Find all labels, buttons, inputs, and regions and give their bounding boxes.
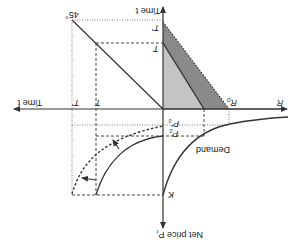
svg-text:Time t: Time t (135, 6, 160, 16)
svg-text:Net price Pt: Net price Pt (157, 229, 204, 240)
svg-text:R: R (276, 98, 283, 108)
svg-text:K: K (167, 190, 174, 200)
label-time-left: Time t (17, 98, 42, 108)
svg-text:P'0: P'0 (169, 118, 180, 129)
label-time-up: Time t (135, 6, 160, 16)
demand-curve (163, 117, 288, 195)
svg-text:T': T' (72, 98, 79, 108)
svg-text:T: T (152, 44, 159, 54)
label-r0: R0 (226, 97, 237, 108)
svg-text:R0: R0 (226, 97, 237, 108)
label-t-prime-horizontal: T' (72, 98, 79, 108)
svg-text:T': T' (152, 23, 159, 33)
label-t-horizontal: T (94, 98, 101, 108)
label-p0-prime: P'0 (169, 118, 180, 129)
label-demand: Demand (196, 145, 230, 155)
resource-extraction-diagram: R Time t Time t Net price Pt 45° T' T T'… (0, 0, 300, 243)
label-t-prime-vertical: T' (152, 23, 159, 33)
svg-text:T: T (94, 98, 101, 108)
shift-arrow-lower (82, 178, 96, 180)
label-r-axis: R (276, 98, 283, 108)
label-p0: P0 (169, 128, 178, 139)
price-path-solid (96, 136, 163, 195)
svg-text:P0: P0 (169, 128, 178, 139)
label-t-vertical: T (152, 44, 159, 54)
shift-arrow-upper (113, 140, 119, 149)
svg-text:45°: 45° (65, 10, 79, 20)
label-k: K (167, 190, 174, 200)
label-net-price: Net price Pt (157, 229, 204, 240)
45-degree-line (72, 20, 163, 109)
label-45-degree: 45° (65, 10, 79, 20)
svg-text:Time t: Time t (17, 98, 42, 108)
svg-text:Demand: Demand (196, 145, 230, 155)
